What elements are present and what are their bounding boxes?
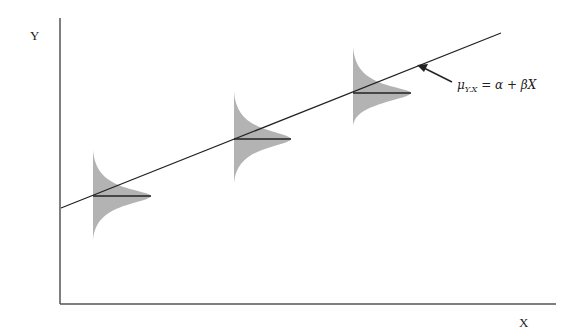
distribution-3 — [353, 47, 411, 126]
eq-mu: μ — [457, 78, 465, 92]
eq-rest: = α + βX — [477, 78, 536, 92]
distribution-2 — [234, 92, 291, 183]
eq-subscript: Y.X — [465, 85, 478, 94]
regression-diagram — [0, 0, 585, 336]
y-axis-label: Y — [30, 28, 39, 44]
x-axis-label: X — [519, 315, 528, 331]
arrow-icon — [417, 64, 452, 82]
distribution-1 — [93, 150, 151, 240]
regression-equation: μY.X = α + βX — [457, 78, 536, 94]
regression-line — [61, 33, 501, 208]
